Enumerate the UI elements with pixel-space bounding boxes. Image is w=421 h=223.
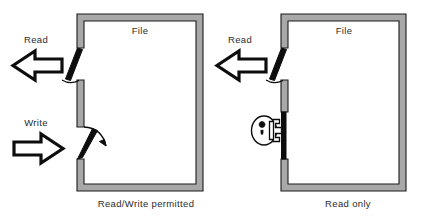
write-door-swing-arrowhead-left	[100, 140, 107, 147]
caption-right: Read only	[325, 198, 371, 209]
room-label-left: File	[132, 25, 149, 36]
read-door-right	[266, 48, 287, 83]
padlock-hasp	[273, 120, 282, 142]
read-door-left	[62, 48, 83, 83]
read-arrow-right	[217, 51, 266, 80]
padlock-hasp-strap	[270, 122, 274, 140]
read-arrow-shape-right	[217, 51, 266, 80]
panel-read-only: File Read	[217, 14, 406, 209]
read-door-leaf-right	[270, 48, 287, 81]
write-door-right	[282, 112, 287, 159]
write-door-leaf-closed-right	[282, 112, 287, 159]
write-label-left: Write	[24, 117, 48, 128]
wall-segment-right-middle	[281, 80, 288, 112]
room-walls-right	[281, 14, 406, 191]
read-arrow-shape-left	[13, 51, 62, 80]
write-door-leaf-left	[78, 129, 98, 160]
write-arrow-shape-left	[14, 134, 63, 163]
panel-read-write: File Read Write Read/Wr	[13, 14, 203, 209]
read-door-leaf-left	[66, 48, 83, 81]
read-label-left: Read	[24, 34, 48, 45]
file-permission-diagram: File Read Write Read/Wr	[0, 0, 421, 223]
caption-left: Read/Write permitted	[98, 198, 195, 209]
room-walls-left	[77, 14, 203, 191]
wall-outline-right	[281, 14, 406, 191]
padlock-icon	[252, 116, 282, 145]
write-door-left	[78, 127, 107, 159]
wall-segment-left-middle	[77, 80, 84, 127]
write-arrow-left	[14, 134, 63, 163]
wall-outline-left	[77, 14, 203, 191]
read-label-right: Read	[228, 34, 252, 45]
room-label-right: File	[336, 25, 353, 36]
read-arrow-left	[13, 51, 62, 80]
